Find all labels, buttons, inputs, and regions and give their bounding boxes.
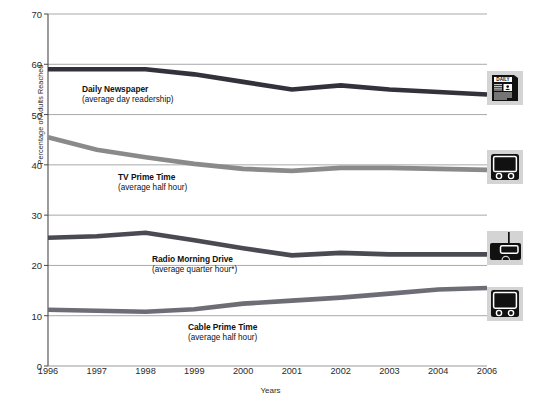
cable-television-icon (487, 287, 523, 321)
x-tick-label-1996: 1996 (28, 366, 68, 376)
series-band-radio-morning-drive (48, 233, 487, 256)
series-sublabel-radio-morning-drive: (average quarter hour*) (152, 265, 237, 276)
series-name-cable-prime-time: Cable Prime Time (188, 322, 257, 333)
x-tick-label-1998: 1998 (126, 366, 166, 376)
svg-text:DAILY: DAILY (496, 77, 509, 82)
media-reach-line-chart: Percentage of Adults Reached 01020304050… (0, 0, 541, 411)
series-sublabel-tv-prime-time: (average half hour) (118, 183, 187, 194)
x-axis-tick-labels: 1996199719981999200020012002200320042006 (0, 366, 541, 382)
series-band-tv-prime-time (48, 137, 487, 171)
x-tick-label-2001: 2001 (272, 366, 312, 376)
series-annotation-radio-morning-drive: Radio Morning Drive (average quarter hou… (152, 254, 237, 275)
x-axis-title: Years (0, 386, 541, 395)
x-tick-label-1999: 1999 (174, 366, 214, 376)
x-tick-label-1997: 1997 (77, 366, 117, 376)
x-tick-label-2002: 2002 (321, 366, 361, 376)
x-tick-label-2006: 2006 (467, 366, 507, 376)
television-icon (487, 150, 523, 184)
x-tick-label-2000: 2000 (223, 366, 263, 376)
series-sublabel-daily-newspaper: (average day readership) (82, 95, 173, 106)
x-tick-label-2003: 2003 (369, 366, 409, 376)
series-annotation-cable-prime-time: Cable Prime Time (average half hour) (188, 322, 257, 343)
newspaper-icon: DAILY (487, 71, 523, 105)
x-tick-label-2004: 2004 (418, 366, 458, 376)
series-band-cable-prime-time (48, 288, 487, 312)
series-name-radio-morning-drive: Radio Morning Drive (152, 254, 237, 265)
series-annotation-daily-newspaper: Daily Newspaper (average day readership) (82, 84, 173, 105)
series-annotation-tv-prime-time: TV Prime Time (average half hour) (118, 172, 187, 193)
series-sublabel-cable-prime-time: (average half hour) (188, 333, 257, 344)
plot-area (0, 0, 541, 411)
series-name-daily-newspaper: Daily Newspaper (82, 84, 173, 95)
radio-icon (487, 231, 523, 265)
series-name-tv-prime-time: TV Prime Time (118, 172, 187, 183)
